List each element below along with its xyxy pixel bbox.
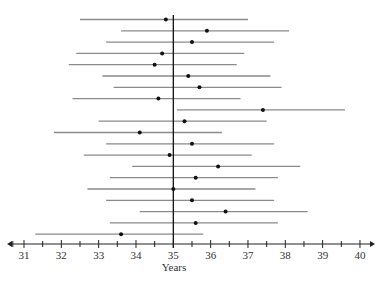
tick-label: 37 <box>242 249 254 261</box>
interval-row <box>106 198 274 202</box>
point-estimate <box>205 29 209 33</box>
interval-row <box>121 29 289 33</box>
point-estimate <box>190 142 194 146</box>
interval-row <box>35 232 203 236</box>
point-estimate <box>224 210 228 214</box>
interval-row <box>177 108 345 112</box>
interval-row <box>99 119 267 123</box>
tick-label: 32 <box>56 249 67 261</box>
interval-row <box>114 85 282 89</box>
interval-row <box>76 51 244 55</box>
point-estimate <box>138 131 142 135</box>
interval-row <box>87 187 255 191</box>
x-axis-title: Years <box>162 261 187 273</box>
x-axis: 31323334353637383940 <box>7 240 375 261</box>
interval-row <box>54 131 222 135</box>
interval-row <box>140 210 308 214</box>
interval-row <box>73 97 241 101</box>
interval-row <box>132 164 300 168</box>
tick-label: 31 <box>19 249 30 261</box>
interval-row <box>106 40 274 44</box>
point-estimate <box>119 232 123 236</box>
point-estimate <box>197 85 201 89</box>
point-estimate <box>164 18 168 22</box>
interval-row <box>110 221 278 225</box>
tick-label: 36 <box>205 249 217 261</box>
confidence-interval-chart: 31323334353637383940 Years <box>0 0 385 288</box>
point-estimate <box>183 119 187 123</box>
point-estimate <box>261 108 265 112</box>
interval-row <box>110 176 278 180</box>
interval-row <box>84 153 252 157</box>
point-estimate <box>194 221 198 225</box>
arrow-right-icon <box>370 241 375 247</box>
point-estimate <box>153 63 157 67</box>
tick-label: 33 <box>93 249 105 261</box>
arrow-left-icon <box>7 241 12 247</box>
point-estimate <box>190 198 194 202</box>
interval-row <box>69 63 237 67</box>
interval-series <box>35 18 345 237</box>
tick-label: 34 <box>130 249 142 261</box>
point-estimate <box>216 164 220 168</box>
point-estimate <box>194 176 198 180</box>
tick-label: 38 <box>280 249 292 261</box>
point-estimate <box>190 40 194 44</box>
point-estimate <box>186 74 190 78</box>
point-estimate <box>160 51 164 55</box>
interval-row <box>106 142 274 146</box>
tick-label: 39 <box>317 249 329 261</box>
point-estimate <box>156 97 160 101</box>
interval-row <box>102 74 270 78</box>
point-estimate <box>168 153 172 157</box>
tick-label: 40 <box>354 249 366 261</box>
tick-label: 35 <box>168 249 180 261</box>
interval-row <box>80 18 248 22</box>
